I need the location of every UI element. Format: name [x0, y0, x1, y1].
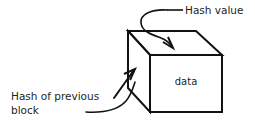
block-diagram: data Hash value Hash of previous block — [0, 0, 255, 125]
hash-value-label: Hash value — [185, 4, 243, 16]
hash-of-previous-block-label-line-1: Hash of previous — [11, 90, 99, 102]
cube-block: data — [128, 31, 222, 112]
cube-front-face-label: data — [175, 76, 198, 87]
hash-of-previous-block-label-line-2: block — [11, 104, 40, 116]
annotation-hash-of-previous-block: Hash of previous block — [11, 69, 135, 116]
diagram-canvas: data Hash value Hash of previous block — [0, 0, 255, 125]
